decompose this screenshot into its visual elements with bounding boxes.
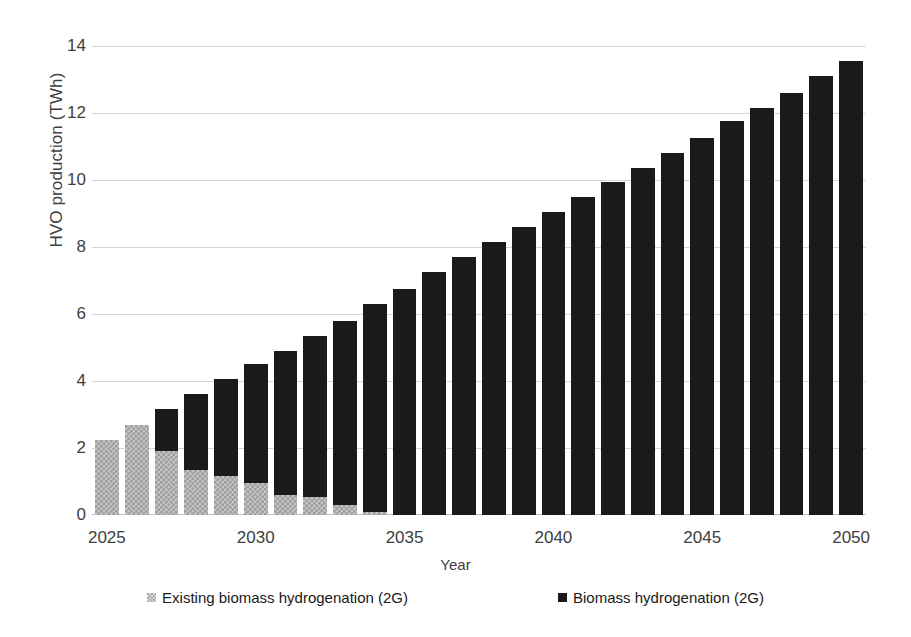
bar-group[interactable] [750,108,774,515]
legend-item-biomass[interactable]: Biomass hydrogenation (2G) [558,589,764,606]
y-tick-label: 2 [0,438,86,458]
bar-segment-biomass[interactable] [422,272,446,515]
x-axis-title: Year [0,556,911,573]
bar-group[interactable] [155,409,179,515]
bar-segment-biomass[interactable] [571,197,595,515]
bar-group[interactable] [690,138,714,515]
bar-segment-biomass[interactable] [274,351,298,495]
bar-segment-biomass[interactable] [482,242,506,515]
bar-segment-biomass[interactable] [690,138,714,515]
bar-segment-existing-biomass[interactable] [333,505,357,515]
bar-group[interactable] [333,321,357,515]
bar-group[interactable] [512,227,536,515]
x-tick-label: 2040 [518,528,588,548]
chart-legend: Existing biomass hydrogenation (2G) Biom… [0,589,911,606]
bar-segment-existing-biomass[interactable] [274,495,298,515]
y-axis-title: HVO production (TWh) [47,15,67,305]
y-tick-label: 14 [0,36,86,56]
bar-segment-biomass[interactable] [780,93,804,515]
bar-segment-biomass[interactable] [452,257,476,515]
bar-segment-biomass[interactable] [244,364,268,483]
bar-group[interactable] [452,257,476,515]
bar-segment-biomass[interactable] [809,76,833,515]
bar-group[interactable] [631,168,655,515]
y-tick-label: 12 [0,103,86,123]
bar-segment-existing-biomass[interactable] [363,512,387,515]
y-tick-label: 10 [0,170,86,190]
bar-segment-biomass[interactable] [512,227,536,515]
bar-segment-biomass[interactable] [839,61,863,515]
bar-group[interactable] [125,425,149,515]
bar-group[interactable] [363,304,387,515]
bar-segment-biomass[interactable] [750,108,774,515]
x-tick-label: 2025 [72,528,142,548]
bar-segment-biomass[interactable] [720,121,744,515]
y-tick-label: 8 [0,237,86,257]
bar-segment-biomass[interactable] [303,336,327,497]
y-tick-label: 4 [0,371,86,391]
bar-segment-biomass[interactable] [631,168,655,515]
legend-label-biomass: Biomass hydrogenation (2G) [573,589,764,606]
bar-group[interactable] [303,336,327,515]
bar-group[interactable] [542,212,566,515]
bar-group[interactable] [214,379,238,515]
bar-segment-existing-biomass[interactable] [95,440,119,515]
x-tick-label: 2035 [370,528,440,548]
bar-group[interactable] [422,272,446,515]
bar-segment-biomass[interactable] [214,379,238,476]
legend-swatch-icon-black [558,593,567,602]
bar-group[interactable] [393,289,417,515]
bar-segment-biomass[interactable] [363,304,387,512]
bar-segment-biomass[interactable] [542,212,566,515]
x-tick-label: 2030 [221,528,291,548]
bar-segment-existing-biomass[interactable] [214,476,238,515]
bar-group[interactable] [482,242,506,515]
x-tick-label: 2050 [816,528,886,548]
bar-group[interactable] [95,440,119,515]
bar-segment-existing-biomass[interactable] [184,470,208,515]
plot-area [92,46,866,515]
bar-group[interactable] [780,93,804,515]
bar-group[interactable] [839,61,863,515]
bar-segment-biomass[interactable] [393,289,417,515]
bar-group[interactable] [274,351,298,515]
bar-segment-biomass[interactable] [661,153,685,515]
bar-segment-biomass[interactable] [184,394,208,469]
bar-group[interactable] [244,364,268,515]
bar-segment-biomass[interactable] [601,182,625,515]
bar-segment-existing-biomass[interactable] [244,483,268,515]
chart-container: HVO production (TWh) 02468101214 2025203… [0,0,911,637]
bar-segment-existing-biomass[interactable] [303,497,327,515]
x-tick-label: 2045 [667,528,737,548]
y-tick-label: 6 [0,304,86,324]
y-tick-label: 0 [0,505,86,525]
bar-group[interactable] [661,153,685,515]
bar-group[interactable] [809,76,833,515]
bar-segment-existing-biomass[interactable] [155,451,179,515]
legend-swatch-icon-gray [147,593,156,602]
bar-segment-existing-biomass[interactable] [125,425,149,515]
bar-segment-biomass[interactable] [155,409,179,451]
bar-segment-biomass[interactable] [333,321,357,505]
bar-group[interactable] [184,394,208,515]
legend-item-existing-biomass[interactable]: Existing biomass hydrogenation (2G) [147,589,408,606]
bar-group[interactable] [571,197,595,515]
bar-group[interactable] [720,121,744,515]
bar-group[interactable] [601,182,625,515]
legend-label-existing-biomass: Existing biomass hydrogenation (2G) [162,589,408,606]
bar-series-container [92,46,866,515]
